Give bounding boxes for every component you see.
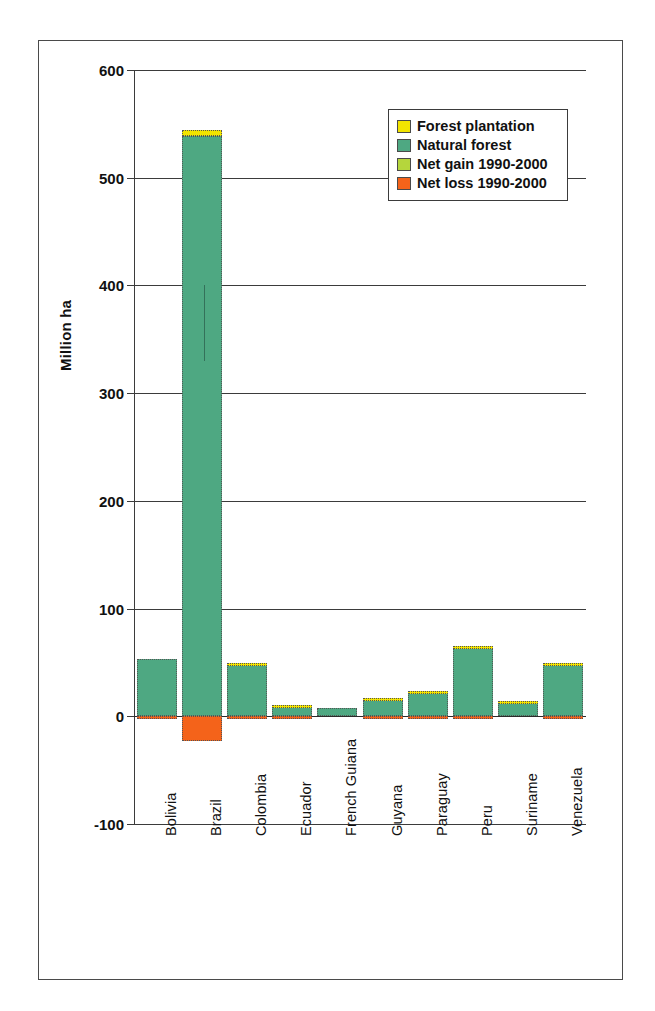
bar-segment-net-loss — [182, 716, 222, 741]
bar-segment-natural-forest — [137, 659, 177, 716]
bar-segment-net-loss — [272, 716, 312, 719]
legend-label: Net loss 1990-2000 — [417, 176, 547, 191]
bar-segment-forest-plantation — [363, 698, 403, 701]
x-tick-label: Ecuador — [298, 781, 314, 836]
bar-segment-net-loss — [227, 716, 267, 719]
bar-segment-forest-plantation — [498, 701, 538, 704]
bar-segment-net-loss — [453, 716, 493, 719]
x-tick-label: Venezuela — [569, 767, 585, 836]
x-tick-label: French Guiana — [343, 739, 359, 836]
y-tick-100 — [127, 609, 134, 610]
y-tick-400 — [127, 285, 134, 286]
y-tick-label: 300 — [99, 386, 124, 401]
bar-segment-forest-plantation — [227, 663, 267, 666]
bar-segment-forest-plantation — [272, 705, 312, 708]
bar-group — [272, 70, 312, 824]
legend-item: Natural forest — [397, 136, 559, 155]
legend-item: Forest plantation — [397, 117, 559, 136]
x-tick-label: Peru — [479, 805, 495, 836]
bar-segment-natural-forest — [317, 708, 357, 717]
bar-segment-natural-forest — [227, 664, 267, 717]
bar-segment-forest-plantation — [453, 646, 493, 649]
legend: Forest plantationNatural forestNet gain … — [388, 109, 568, 201]
x-tick-label: Guyana — [389, 785, 405, 836]
y-tick-300 — [127, 393, 134, 394]
bar-segment-natural-forest — [543, 664, 583, 717]
legend-item: Net gain 1990-2000 — [397, 155, 559, 174]
bar-segment-net-loss — [137, 716, 177, 719]
legend-label: Net gain 1990-2000 — [417, 157, 548, 172]
y-tick--100 — [127, 824, 134, 825]
y-tick-label: 400 — [99, 278, 124, 293]
legend-label: Forest plantation — [417, 119, 535, 134]
y-tick-200 — [127, 501, 134, 502]
bar-segment-natural-forest — [408, 692, 448, 717]
bar-group — [182, 70, 222, 824]
y-tick-label: 0 — [116, 709, 124, 724]
bar-segment-net-loss — [363, 716, 403, 719]
chart-area: Million ha -1000100200300400500600 Boliv… — [39, 41, 624, 981]
bar-segment-forest-plantation — [182, 130, 222, 135]
y-tick-500 — [127, 178, 134, 179]
bar-segment-net-loss — [543, 716, 583, 719]
y-tick-label: 600 — [99, 63, 124, 78]
y-tick-label: 100 — [99, 601, 124, 616]
bar-segment-natural-forest — [453, 647, 493, 716]
y-tick-600 — [127, 70, 134, 71]
x-tick-label: Colombia — [253, 774, 269, 836]
y-axis-spine — [134, 70, 135, 824]
x-tick-label: Brazil — [208, 799, 224, 836]
y-axis-title: Million ha — [57, 300, 74, 371]
figure-frame: Million ha -1000100200300400500600 Boliv… — [38, 40, 623, 980]
bar-segment-forest-plantation — [408, 691, 448, 694]
legend-label: Natural forest — [417, 138, 511, 153]
gridline--100 — [134, 824, 586, 825]
bar-segment-forest-plantation — [543, 663, 583, 666]
scan-artifact — [204, 285, 205, 360]
bar-group — [137, 70, 177, 824]
bar-segment-natural-forest — [182, 136, 222, 717]
legend-swatch-icon — [397, 139, 411, 152]
x-tick-label: Bolivia — [163, 793, 179, 836]
x-tick-label: Suriname — [524, 773, 540, 836]
legend-swatch-icon — [397, 177, 411, 190]
legend-swatch-icon — [397, 158, 411, 171]
y-tick-label: -100 — [94, 817, 124, 832]
bar-group — [227, 70, 267, 824]
legend-swatch-icon — [397, 120, 411, 133]
y-tick-label: 200 — [99, 493, 124, 508]
y-tick-label: 500 — [99, 170, 124, 185]
x-tick-label: Paraguay — [434, 773, 450, 836]
bar-segment-net-loss — [408, 716, 448, 719]
legend-item: Net loss 1990-2000 — [397, 174, 559, 193]
bar-group — [317, 70, 357, 824]
y-tick-0 — [127, 716, 134, 717]
